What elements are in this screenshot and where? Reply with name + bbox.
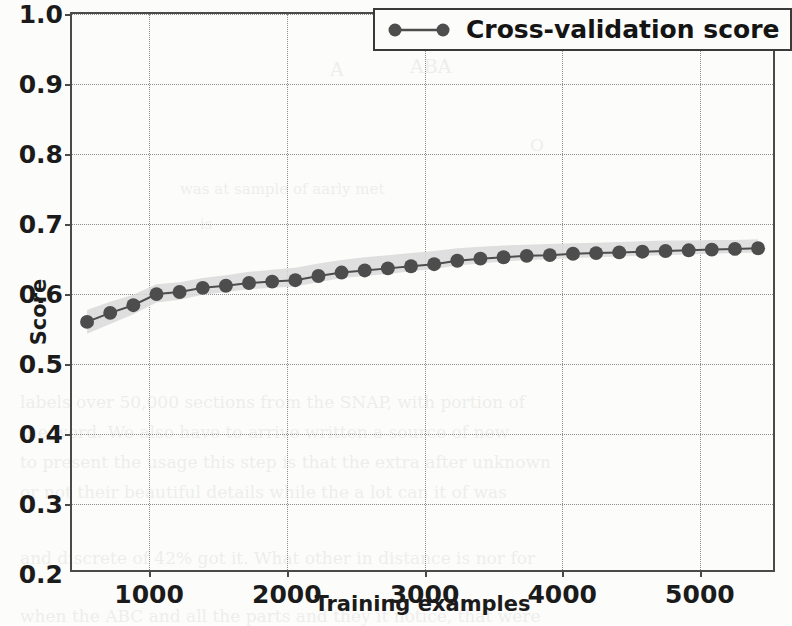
data-point-marker: [612, 245, 626, 259]
y-tick-label: 0.7: [19, 210, 63, 239]
data-point-marker: [381, 261, 395, 275]
y-tick-mark: [65, 504, 72, 506]
data-point-marker: [520, 249, 534, 263]
data-point-marker: [335, 266, 349, 280]
data-point-marker: [288, 273, 302, 287]
y-tick-mark: [65, 364, 72, 366]
x-tick-mark: [562, 570, 564, 577]
data-point-marker: [404, 259, 418, 273]
chart-legend[interactable]: Cross-validation score: [373, 8, 792, 51]
plot-area: 0.20.30.40.50.60.70.80.91.01000200030004…: [70, 12, 775, 572]
x-tick-mark: [149, 570, 151, 577]
y-tick-label: 0.6: [19, 280, 63, 309]
data-point-marker: [566, 247, 580, 261]
y-tick-mark: [65, 434, 72, 436]
y-tick-mark: [65, 14, 72, 16]
y-tick-mark: [65, 154, 72, 156]
confidence-band: [87, 239, 758, 334]
data-point-marker: [265, 275, 279, 289]
x-tick-mark: [700, 570, 702, 577]
data-point-marker: [450, 254, 464, 268]
x-tick-label: 4000: [527, 580, 597, 609]
series-layer: [72, 14, 773, 570]
data-point-marker: [126, 298, 140, 312]
data-point-marker: [427, 257, 441, 271]
y-tick-mark: [65, 224, 72, 226]
y-tick-label: 0.2: [19, 560, 63, 589]
y-tick-label: 0.8: [19, 140, 63, 169]
y-tick-label: 1.0: [19, 0, 63, 29]
y-tick-label: 0.3: [19, 490, 63, 519]
y-tick-mark: [65, 294, 72, 296]
data-point-marker: [682, 243, 696, 257]
x-tick-label: 2000: [252, 580, 322, 609]
data-point-marker: [173, 285, 187, 299]
legend-line-marker-icon: [386, 19, 452, 41]
data-point-marker: [150, 287, 164, 301]
data-point-marker: [589, 246, 603, 260]
data-point-marker: [543, 248, 557, 262]
data-point-marker: [751, 241, 765, 255]
data-point-marker: [219, 279, 233, 293]
x-tick-mark: [287, 570, 289, 577]
x-tick-label: 5000: [665, 580, 735, 609]
data-point-marker: [497, 250, 511, 264]
data-point-marker: [311, 269, 325, 283]
y-tick-label: 0.4: [19, 420, 63, 449]
data-point-marker: [728, 242, 742, 256]
data-point-marker: [242, 276, 256, 290]
data-point-marker: [196, 281, 210, 295]
data-point-marker: [473, 252, 487, 266]
data-point-marker: [635, 245, 649, 259]
x-tick-label: 1000: [114, 580, 184, 609]
data-point-marker: [103, 306, 117, 320]
x-tick-label: 3000: [390, 580, 460, 609]
y-tick-mark: [65, 84, 72, 86]
data-point-marker: [705, 243, 719, 257]
data-point-marker: [659, 244, 673, 258]
data-point-marker: [358, 264, 372, 278]
y-tick-label: 0.9: [19, 70, 63, 99]
x-tick-mark: [425, 570, 427, 577]
data-point-marker: [80, 315, 94, 329]
legend-label: Cross-validation score: [466, 15, 779, 44]
y-tick-label: 0.5: [19, 350, 63, 379]
